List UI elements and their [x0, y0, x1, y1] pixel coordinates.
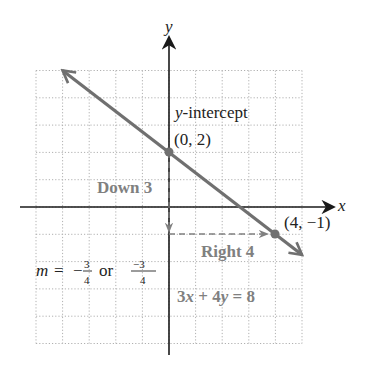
slope-annotation: m = − 3 4 or −3 4: [36, 258, 156, 286]
svg-text:4: 4: [84, 274, 90, 286]
svg-text:−: −: [73, 261, 83, 280]
rise-label: Down 3: [97, 178, 152, 197]
run-label: Right 4: [201, 242, 255, 261]
equation-label: 3x + 4y = 8: [177, 287, 255, 306]
y-intercept-point: [165, 148, 174, 157]
line-3x-plus-4y-equals-8: [63, 71, 302, 255]
svg-text:3: 3: [84, 258, 90, 270]
y-axis-label: y: [163, 17, 173, 36]
svg-text:−3: −3: [133, 258, 145, 270]
point-coords-label: (4, −1): [284, 213, 330, 232]
y-intercept-coords: (0, 2): [174, 130, 211, 149]
svg-text:4: 4: [140, 274, 146, 286]
svg-text:or: or: [99, 261, 114, 280]
y-intercept-label: y-intercept: [173, 103, 248, 122]
graph-of-line: y x y-intercept (0, 2) (4, −1) Down 3 Ri…: [0, 0, 365, 366]
svg-text:=: =: [54, 261, 64, 280]
point-4-neg1: [271, 230, 280, 239]
x-axis-label: x: [337, 196, 346, 215]
svg-text:m: m: [36, 261, 48, 280]
